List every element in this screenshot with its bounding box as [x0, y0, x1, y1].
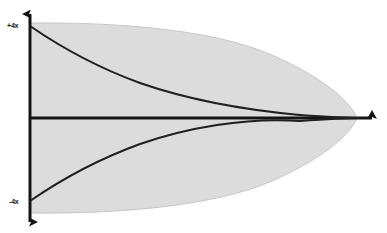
y-axis-label-negative: -4x — [9, 198, 19, 205]
plot-area: +4x -4x — [0, 0, 387, 233]
y-axis-label-positive: +4x — [7, 22, 19, 29]
figure-canvas: +4x -4x — [0, 0, 387, 233]
